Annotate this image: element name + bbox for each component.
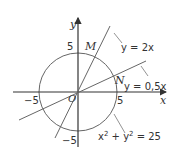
tick-y-5: 5 [67, 41, 73, 52]
tick-x-5: 5 [117, 95, 123, 106]
tick-x-neg5: −5 [24, 95, 39, 106]
label-y-2x: y = 2x [121, 42, 154, 53]
tick-y-neg5: −5 [62, 135, 77, 146]
y-axis-label: y [69, 18, 77, 31]
point-m-label: M [84, 40, 97, 53]
label-circle: x2 + y2 = 25 [98, 130, 161, 142]
coordinate-diagram: y x O 5 −5 5 −5 M N y = 2x y = 0,5x x2 +… [0, 0, 175, 153]
origin-label: O [68, 93, 76, 104]
x-axis-label: x [160, 94, 167, 107]
leader-y-0-5x [141, 66, 148, 76]
label-y-0-5x: y = 0,5x [124, 81, 167, 92]
